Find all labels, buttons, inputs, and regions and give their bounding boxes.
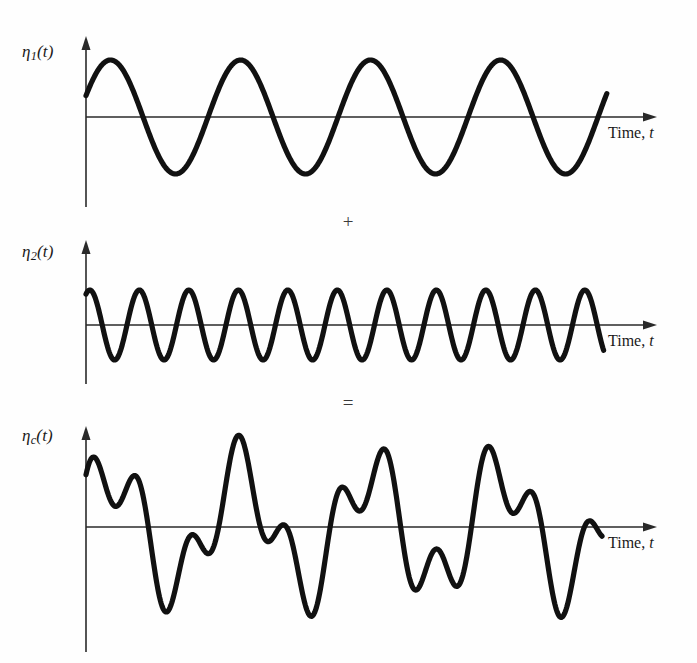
panel-etac: ηc(t) Time, t (0, 420, 697, 663)
x-axis-label-etac: Time, t (608, 534, 654, 552)
panel-eta1: η1(t) Time, t (0, 0, 697, 215)
x-axis-arrowhead-eta2 (643, 321, 657, 330)
panel-eta2: η2(t) Time, t (0, 232, 697, 397)
y-axis-arrowhead-eta1 (82, 36, 91, 50)
y-axis-label-etac: ηc(t) (22, 426, 53, 448)
x-axis-label-eta1: Time, t (608, 124, 654, 142)
x-axis-label-eta2: Time, t (608, 332, 654, 350)
plot-etac (0, 420, 697, 663)
figure-canvas: η1(t) Time, t + η2(t) Time, t = (0, 0, 697, 663)
y-axis-label-eta1: η1(t) (22, 42, 54, 64)
operator-equals: = (328, 392, 368, 414)
y-axis-label-eta2: η2(t) (22, 242, 54, 264)
operator-plus: + (328, 211, 368, 233)
plot-eta2 (0, 232, 697, 397)
x-axis-arrowhead-eta1 (643, 113, 657, 122)
y-axis-arrowhead-etac (82, 426, 91, 440)
plot-eta1 (0, 0, 697, 215)
y-axis-arrowhead-eta2 (82, 240, 91, 254)
x-axis-arrowhead-etac (643, 523, 657, 532)
